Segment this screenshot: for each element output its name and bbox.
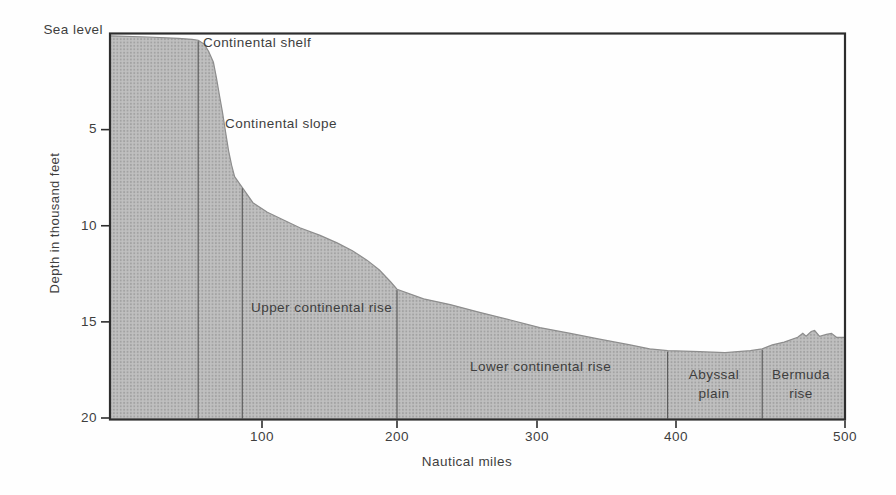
bermuda-rise-label-line2: rise [772,385,830,404]
lower-continental-rise-label: Lower continental rise [470,359,611,375]
abyssal-plain-label-line1: Abyssal [689,366,739,385]
y-tick-label-10: 10 [81,218,97,234]
continental-slope-label: Continental slope [225,116,337,132]
bermuda-rise-label-line1: Bermuda [772,366,830,385]
abyssal-plain-label: Abyssal plain [689,366,739,403]
x-tick-label-300: 300 [525,429,549,445]
x-tick-label-200: 200 [385,429,409,445]
x-tick-label-400: 400 [664,429,688,445]
y-tick-label-20: 20 [81,410,97,426]
abyssal-plain-label-line2: plain [689,385,739,404]
x-axis-title: Nautical miles [422,454,512,470]
continental-shelf-label: Continental shelf [203,35,311,51]
upper-continental-rise-label: Upper continental rise [251,300,392,316]
y-axis-title: Depth in thousand feet [47,148,63,298]
x-tick-label-100: 100 [250,429,274,445]
y-tick-label-15: 15 [81,314,97,330]
ocean-profile-chart [0,0,896,495]
y-tick-label-5: 5 [89,121,97,137]
ocean-floor-profile-figure: Sea level 5 10 15 20 100 200 300 400 500… [0,0,896,495]
bermuda-rise-label: Bermuda rise [772,366,830,403]
sea-level-label: Sea level [43,22,103,38]
x-tick-label-500: 500 [833,429,857,445]
